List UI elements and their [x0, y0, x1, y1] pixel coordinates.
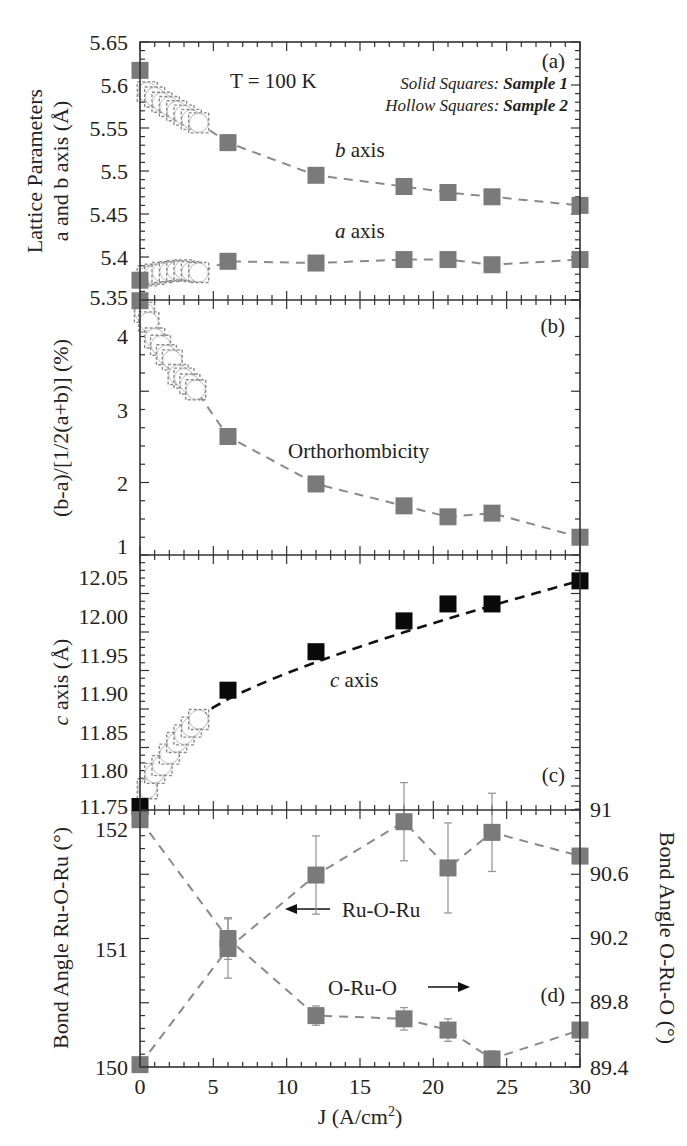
y-tick-label-left: 151 [95, 937, 128, 962]
y-axis-title-line1: Lattice Parameters [22, 89, 47, 253]
c-axis-label: c axis [330, 668, 378, 692]
y-tick-label: 1 [117, 534, 128, 559]
data-marker [220, 253, 237, 270]
data-marker [440, 251, 457, 268]
a-axis-label: a axis [335, 219, 385, 243]
y-tick-label-left: 152 [95, 817, 128, 842]
y-tick-label: 12.05 [79, 565, 129, 590]
hollow-marker [189, 710, 208, 729]
panel-b-y-axis-title: (b-a)/[1/2(a+b)] (%) [48, 339, 73, 517]
y-tick-label-left: 150 [95, 1055, 128, 1080]
data-marker [440, 859, 457, 876]
data-marker [308, 475, 325, 492]
x-tick-label: 20 [422, 1074, 444, 1099]
data-marker [396, 497, 413, 514]
y-tick-label-right: 90.2 [590, 925, 629, 950]
hollow-marker [186, 380, 205, 399]
y-axis-title-line2: a and b axis (Å) [48, 101, 73, 242]
y-tick-label: 5.45 [90, 202, 129, 227]
left-arrow-icon [285, 904, 297, 914]
y-tick-label: 5.55 [90, 116, 129, 141]
trend-line [199, 581, 580, 720]
panel-d-left-axis-title: Bond Angle Ru-O-Ru (°) [48, 827, 73, 1049]
legend-hollow-sample: Sample 2 [503, 96, 568, 115]
data-marker [440, 184, 457, 201]
y-tick-label: 5.4 [101, 245, 129, 270]
y-tick-label: 11.75 [79, 794, 128, 819]
y-tick-label: 5.65 [90, 30, 129, 55]
figure-canvas: 5.65 5.6 5.55 5.5 5.45 5.4 5.35 Lattice … [0, 0, 687, 1146]
panel-tag-d: (d) [541, 983, 566, 1007]
data-marker [396, 251, 413, 268]
oruo-label: O-Ru-O [328, 976, 397, 1000]
panel-d-right-tick-labels: 91 90.6 90.2 89.8 89.4 [590, 797, 629, 1080]
data-marker [308, 167, 325, 184]
data-marker [440, 508, 457, 525]
a-axis-word: axis [346, 219, 385, 243]
legend-hollow-prefix: Hollow Squares: [384, 96, 499, 115]
y-tick-label-right: 91 [590, 797, 612, 822]
x-axis-title-close: ) [395, 1104, 402, 1129]
hollow-marker [189, 113, 208, 132]
y-tick-label: 11.95 [79, 643, 128, 668]
panel-d-plot [132, 783, 589, 1074]
legend-hollow: Hollow Squares:Sample 2 [384, 96, 568, 115]
panel-tag-c: (c) [542, 763, 565, 787]
panel-d-left-tick-labels: 152 151 150 [95, 817, 128, 1080]
panel-b-y-tick-labels: 4 3 2 1 [117, 324, 128, 559]
y-tick-label: 5.35 [90, 285, 129, 310]
x-tick-label: 15 [349, 1074, 371, 1099]
oruo-annotation: O-Ru-O [328, 976, 470, 1000]
x-axis-title: J (A/cm2) [318, 1104, 403, 1129]
data-marker [396, 178, 413, 195]
panel-b-plot [132, 292, 589, 546]
panel-b: 4 3 2 1 (b-a)/[1/2(a+b)] (%) (b) Orthorh… [48, 292, 589, 559]
panel-a: 5.65 5.6 5.55 5.5 5.45 5.4 5.35 Lattice … [22, 30, 589, 310]
c-axis-word: axis [339, 668, 378, 692]
b-axis-label: b axis [335, 138, 385, 162]
trend-line [140, 822, 580, 1065]
panel-c-y-axis-title: c axis (Å) [48, 639, 73, 726]
trend-line [140, 301, 580, 538]
legend-solid-sample: Sample 1 [503, 74, 568, 93]
panel-d: 152 151 150 91 90.6 90.2 89.8 89.4 Bond … [48, 783, 680, 1080]
data-marker [308, 1007, 325, 1024]
y-tick-label-right: 90.6 [590, 861, 629, 886]
data-marker [484, 824, 501, 841]
x-tick-label: 25 [496, 1074, 518, 1099]
data-marker [308, 867, 325, 884]
data-marker [484, 256, 501, 273]
x-axis-tick-labels: 0 5 10 15 20 25 30 [135, 1074, 592, 1099]
x-axis-title-sup: 2 [388, 1104, 395, 1119]
b-axis-letter: b [335, 138, 346, 162]
panel-c: 12.05 12.00 11.95 11.90 11.85 11.80 11.7… [48, 555, 589, 819]
y-tick-label: 5.5 [101, 159, 129, 184]
data-marker [308, 643, 325, 660]
panel-tag-a: (a) [542, 49, 565, 73]
legend-solid-prefix: Solid Squares: [400, 74, 499, 93]
x-tick-label: 10 [276, 1074, 298, 1099]
data-marker [396, 813, 413, 830]
data-marker [220, 134, 237, 151]
ruoru-annotation: Ru-O-Ru [285, 898, 421, 922]
data-marker [220, 682, 237, 699]
data-marker [396, 612, 413, 629]
panel-a-y-axis-title: Lattice Parameters a and b axis (Å) [22, 89, 73, 253]
legend-solid: Solid Squares:Sample 1 [400, 74, 568, 93]
y-tick-label: 5.6 [101, 73, 129, 98]
data-marker [220, 428, 237, 445]
y-tick-label: 11.90 [79, 681, 128, 706]
orthorhombicity-label: Orthorhombicity [288, 439, 430, 463]
x-tick-label: 30 [569, 1074, 591, 1099]
y-tick-label: 11.85 [79, 720, 128, 745]
y-tick-label: 11.80 [79, 758, 128, 783]
data-marker [396, 1010, 413, 1027]
panel-a-y-tick-labels: 5.65 5.6 5.55 5.5 5.45 5.4 5.35 [90, 30, 129, 310]
b-axis-word: axis [346, 138, 385, 162]
panel-c-plot [132, 572, 589, 815]
ruoru-label: Ru-O-Ru [342, 898, 421, 922]
x-tick-label: 5 [208, 1074, 219, 1099]
trend-line [140, 820, 580, 1059]
y-tick-label: 4 [117, 324, 128, 349]
panel-b-ticks [140, 300, 580, 555]
